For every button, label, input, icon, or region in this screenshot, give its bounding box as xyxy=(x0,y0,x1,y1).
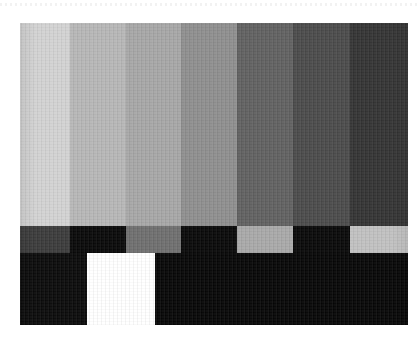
mid-1 xyxy=(20,226,70,253)
bar-2 xyxy=(70,23,126,226)
scan-line-artifact xyxy=(0,3,419,6)
bottom-black-right xyxy=(155,253,408,325)
mid-4 xyxy=(181,226,237,253)
bar-6 xyxy=(293,23,350,226)
bar-3 xyxy=(126,23,181,226)
bottom-band-row xyxy=(20,253,408,325)
mid-band-row xyxy=(20,226,408,253)
mid-2 xyxy=(70,226,126,253)
mid-7 xyxy=(350,226,408,253)
bar-5 xyxy=(237,23,293,226)
bottom-white-patch xyxy=(87,253,155,325)
bar-1 xyxy=(20,23,70,226)
mid-6 xyxy=(293,226,350,253)
mid-5 xyxy=(237,226,293,253)
bar-4 xyxy=(181,23,237,226)
mid-3 xyxy=(126,226,181,253)
grayscale-test-pattern-image xyxy=(20,23,408,325)
top-bars-row xyxy=(20,23,408,226)
bar-7 xyxy=(350,23,408,226)
bottom-black-left xyxy=(20,253,87,325)
page-root xyxy=(0,0,419,342)
